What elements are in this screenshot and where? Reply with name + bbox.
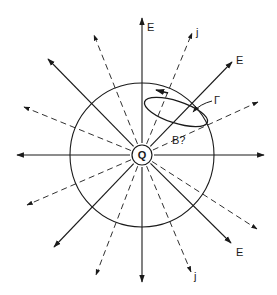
current-line-j-ese bbox=[152, 162, 257, 230]
label-e-top: E bbox=[147, 21, 154, 33]
label-e-ne: E bbox=[236, 54, 243, 66]
loop-ellipse bbox=[141, 91, 211, 132]
current-line-j-ssw bbox=[96, 166, 138, 275]
current-line-j-wnw bbox=[24, 107, 131, 151]
diagram-labels: EjEΓB?Ej bbox=[147, 21, 243, 282]
charge-field-diagram: Q EjEΓB?Ej bbox=[0, 0, 277, 295]
label-e-se: E bbox=[236, 246, 243, 258]
label-b: B? bbox=[172, 134, 185, 146]
label-gamma: Γ bbox=[214, 94, 220, 106]
current-line-j-ene bbox=[153, 102, 258, 150]
label-j-bottom: j bbox=[193, 270, 196, 282]
charge-label: Q bbox=[138, 149, 147, 161]
amperian-loop bbox=[141, 90, 212, 133]
label-j-top: j bbox=[195, 26, 198, 38]
loop-direction-arrow-icon bbox=[156, 90, 168, 93]
